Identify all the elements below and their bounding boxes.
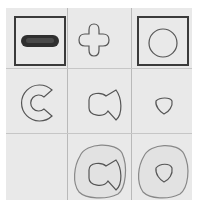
blob-icon	[75, 145, 126, 198]
bowtie-icon	[89, 90, 121, 120]
triangle-icon	[156, 98, 172, 114]
puzzle-grid	[6, 8, 192, 200]
blob-icon	[139, 146, 188, 198]
circle-icon	[149, 29, 177, 57]
cross-icon	[79, 24, 109, 56]
shapes-layer	[6, 8, 192, 200]
pill-icon	[21, 35, 59, 47]
c-shape-icon	[22, 85, 52, 121]
